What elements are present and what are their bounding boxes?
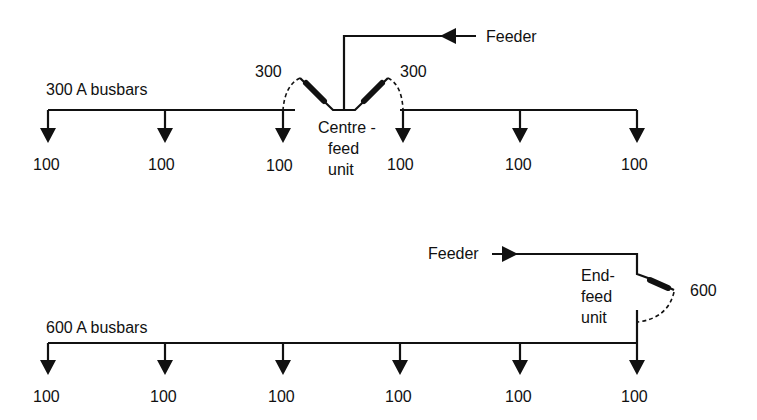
centre-feed-label-2: feed xyxy=(328,140,359,157)
right-fuse-icon xyxy=(364,83,382,101)
end-feed-label-1: End- xyxy=(581,267,615,284)
load-value: 100 xyxy=(33,156,60,173)
load-value: 100 xyxy=(505,156,532,173)
top-feeder: Feeder xyxy=(344,28,537,110)
load-value: 100 xyxy=(266,157,293,174)
bottom-loads: 100 100 100 100 100 100 xyxy=(33,343,648,405)
load-arrow-icon xyxy=(157,110,173,143)
feeder-arrow-icon xyxy=(440,28,456,44)
end-fuse-icon xyxy=(650,280,668,288)
load-arrow-icon xyxy=(512,110,528,143)
feeder-arrow-icon xyxy=(502,246,518,262)
load-value: 100 xyxy=(505,388,532,405)
feeder-label: Feeder xyxy=(428,245,479,262)
load-arrow-icon xyxy=(395,110,411,143)
load-arrow-icon xyxy=(40,343,56,375)
load-arrow-icon xyxy=(275,343,291,375)
centre-feed-label-3: unit xyxy=(328,161,354,178)
load-arrow-icon xyxy=(157,343,173,375)
left-fuse-rating: 300 xyxy=(255,63,282,80)
load-arrow-icon xyxy=(629,110,645,143)
load-value: 100 xyxy=(385,388,412,405)
end-feed-diagram: 600 A busbars Feeder 600 End- feed unit … xyxy=(33,245,717,405)
load-value: 100 xyxy=(268,388,295,405)
load-value: 100 xyxy=(387,156,414,173)
load-arrow-icon xyxy=(512,343,528,375)
feeder-label: Feeder xyxy=(486,28,537,45)
left-fuse-dashed-link xyxy=(283,78,300,110)
load-value: 100 xyxy=(621,388,648,405)
load-value: 100 xyxy=(33,388,60,405)
load-value: 100 xyxy=(150,388,177,405)
busbar-label-600: 600 A busbars xyxy=(46,319,147,336)
load-arrow-icon xyxy=(275,110,291,143)
right-fuse-rating: 300 xyxy=(400,63,427,80)
end-feed-label-2: feed xyxy=(581,288,612,305)
centre-feed-diagram: 300 A busbars Feeder 300 300 Centre - fe… xyxy=(33,28,648,178)
right-fuse-dashed-link xyxy=(388,78,403,110)
load-arrow-icon xyxy=(629,343,645,375)
load-arrow-icon xyxy=(40,110,56,143)
busbar-diagram: 300 A busbars Feeder 300 300 Centre - fe… xyxy=(0,0,757,420)
left-fuse-icon xyxy=(306,83,324,101)
load-value: 100 xyxy=(148,156,175,173)
bottom-feeder: Feeder xyxy=(428,245,674,290)
load-value: 100 xyxy=(621,156,648,173)
centre-feed-label-1: Centre - xyxy=(318,119,376,136)
load-arrow-icon xyxy=(392,343,408,375)
busbar-label-300: 300 A busbars xyxy=(46,81,147,98)
end-feed-label-3: unit xyxy=(581,309,607,326)
end-fuse-dashed-link xyxy=(638,292,674,322)
end-fuse-rating: 600 xyxy=(690,282,717,299)
